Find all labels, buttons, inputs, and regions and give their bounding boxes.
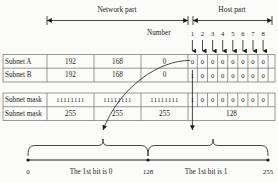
mask-decimal-octet-3: 255 [159,110,170,118]
subnet-a-bit-5: 0 [231,58,234,65]
bit-number-3: 3 [211,30,214,37]
subnet-b-octet-2: 168 [112,71,123,79]
subnet-b-bit-6: 0 [241,72,244,79]
subnet-a-octet-2: 168 [112,58,123,66]
network-part-label: Network part [97,6,136,13]
axis-end-label: 255 [263,168,274,176]
subnet-b-bit-1: 1 [191,72,194,79]
subnet-b-bit-5: 0 [231,72,234,79]
mask-decimal-octet-4: 128 [226,110,237,118]
subnet-b-bit-2: 0 [201,72,204,79]
mask-binary-octet-3: 11111111 [150,96,178,103]
axis-left-caption: The 1st bit is 0 [70,168,113,176]
number-line [26,158,269,161]
mask-bit-1: 1 [191,96,194,103]
mask-bit-6: 0 [241,96,244,103]
axis-right-caption: The 1st bit is 1 [185,168,228,176]
subnet-a-octet-1: 192 [65,58,76,66]
mask-decimal-octet-1: 255 [65,110,76,118]
subnet-b-octet-1: 192 [65,71,76,79]
row-label-subnet-a: Subnet A [5,58,32,66]
subnet-a-bit-4: 0 [221,58,224,65]
mask-decimal-octet-2: 255 [112,110,123,118]
axis-start-label: 0 [26,168,30,176]
bit-number-4: 4 [221,30,224,37]
row-label-subnet-mask-decimal: Subnet mask [5,110,42,118]
number-label: Number [147,30,171,37]
mask-bit-5: 0 [231,96,234,103]
bit-number-7: 7 [251,30,254,37]
subnet-a-octet-3: 0 [163,58,167,66]
axis-middle-label: 128 [143,168,154,176]
bit-number-2: 2 [201,30,204,37]
row-label-subnet-b: Subnet B [5,71,32,79]
bit-number-6: 6 [241,30,244,37]
bit-number-8: 8 [261,30,264,37]
mask-bit-7: 0 [251,96,254,103]
subnet-b-bit-7: 0 [251,72,254,79]
bit-pointer-arrows [192,40,263,51]
bit-number-5: 5 [231,30,234,37]
row-label-subnet-mask-binary: Subnet mask [5,96,42,104]
subnet-a-bit-8: 0 [261,58,264,65]
mask-bit-2: 0 [201,96,204,103]
subnet-mask-diagram: Network part Host part Number 1 2 3 4 5 … [0,0,278,183]
subnet-a-bit-2: 0 [201,58,204,65]
host-part-span [193,16,272,25]
bit-number-1: 1 [191,30,194,37]
host-part-label: Host part [218,6,245,13]
mask-bit-3: 0 [211,96,214,103]
subnet-b-bit-8: 0 [261,72,264,79]
mask-bit-4: 0 [221,96,224,103]
subnet-a-bit-6: 0 [241,58,244,65]
subnet-b-bit-4: 0 [221,72,224,79]
mask-bit-8: 0 [261,96,264,103]
subnet-b-bit-3: 0 [211,72,214,79]
range-braces [28,139,268,156]
diagram-vector-layer [0,0,278,183]
network-part-span [47,16,188,25]
subnet-a-bit-3: 0 [211,58,214,65]
subnet-b-octet-3: 0 [163,71,167,79]
subnet-a-bit-1: 0 [191,58,194,65]
mask-binary-octet-1: 11111111 [56,96,84,103]
subnet-a-bit-7: 0 [251,58,254,65]
mask-binary-octet-2: 11111111 [103,96,131,103]
